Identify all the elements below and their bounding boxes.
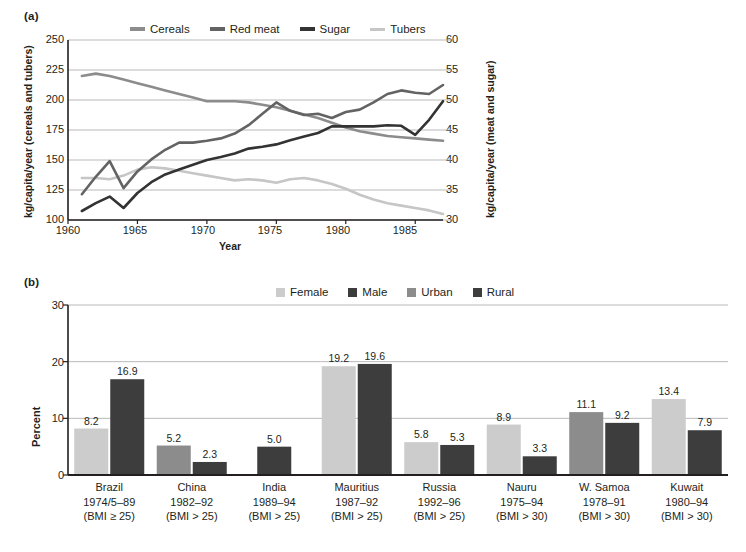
- category-label-brazil: Brazil1974/5–89(BMI ≥ 25): [68, 480, 151, 524]
- bar-value-label: 19.2: [319, 352, 359, 364]
- bar-value-label: 2.3: [190, 448, 230, 460]
- category-criterion: (BMI > 30): [481, 509, 564, 524]
- category-period: 1989–94: [233, 495, 316, 510]
- bar-value-label: 5.2: [154, 432, 194, 444]
- bar-value-label: 5.3: [437, 431, 477, 443]
- category-criterion: (BMI > 25): [398, 509, 481, 524]
- category-name: China: [151, 480, 234, 495]
- bar-value-label: 8.2: [71, 415, 111, 427]
- bar-value-label: 13.4: [649, 385, 689, 397]
- panel-a-line-chart: (a) Cereals Red meat Sugar Tubers kg/cap…: [0, 0, 746, 262]
- category-label-nauru: Nauru1975–94(BMI > 30): [481, 480, 564, 524]
- category-name: Brazil: [68, 480, 151, 495]
- category-period: 1975–94: [481, 495, 564, 510]
- category-label-india: India1989–94(BMI > 25): [233, 480, 316, 524]
- bar-value-label: 9.2: [602, 409, 642, 421]
- bar-value-label: 8.9: [484, 411, 524, 423]
- panel-a-plot: [0, 0, 746, 262]
- category-name: Kuwait: [646, 480, 729, 495]
- category-criterion: (BMI ≥ 25): [68, 509, 151, 524]
- category-label-kuwait: Kuwait1980–94(BMI > 30): [646, 480, 729, 524]
- category-period: 1992–96: [398, 495, 481, 510]
- category-period: 1982–92: [151, 495, 234, 510]
- panel-a-series-lines: [82, 74, 443, 214]
- category-criterion: (BMI > 25): [233, 509, 316, 524]
- panel-a-gridlines: [68, 40, 451, 224]
- panel-b-bar-chart: (b) Female Male Urban Rural Percent 30 2…: [0, 262, 746, 552]
- category-period: 1978–91: [563, 495, 646, 510]
- category-label-russia: Russia1992–96(BMI > 25): [398, 480, 481, 524]
- bar-value-label: 19.6: [355, 350, 395, 362]
- category-period: 1974/5–89: [68, 495, 151, 510]
- bar-value-label: 7.9: [685, 416, 725, 428]
- category-label-mauritius: Mauritius1987–92(BMI > 25): [316, 480, 399, 524]
- bar-value-label: 16.9: [107, 365, 147, 377]
- category-name: W. Samoa: [563, 480, 646, 495]
- category-criterion: (BMI > 25): [316, 509, 399, 524]
- bar-value-label: 5.0: [254, 433, 294, 445]
- category-period: 1980–94: [646, 495, 729, 510]
- category-label-china: China1982–92(BMI > 25): [151, 480, 234, 524]
- category-name: Mauritius: [316, 480, 399, 495]
- category-label-w-samoa: W. Samoa1978–91(BMI > 30): [563, 480, 646, 524]
- category-criterion: (BMI > 30): [563, 509, 646, 524]
- bar-value-label: 11.1: [566, 398, 606, 410]
- category-name: India: [233, 480, 316, 495]
- category-criterion: (BMI > 30): [646, 509, 729, 524]
- category-period: 1987–92: [316, 495, 399, 510]
- category-name: Nauru: [481, 480, 564, 495]
- bar-value-label: 5.8: [401, 428, 441, 440]
- bar-value-label: 3.3: [520, 442, 560, 454]
- category-criterion: (BMI > 25): [151, 509, 234, 524]
- category-name: Russia: [398, 480, 481, 495]
